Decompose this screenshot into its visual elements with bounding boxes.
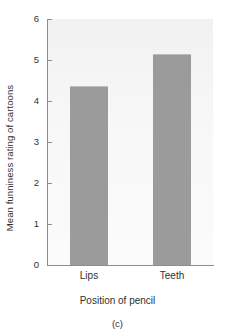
y-tick-mark bbox=[48, 265, 52, 266]
figure-caption: (c) bbox=[0, 318, 235, 329]
y-tick-label: 0 bbox=[23, 260, 39, 270]
x-tick-label-teeth: Teeth bbox=[137, 270, 207, 281]
bar-lips bbox=[70, 86, 108, 265]
figure-panel-c: Mean funniness rating of cartoons 012345… bbox=[0, 0, 235, 336]
x-axis-title: Position of pencil bbox=[0, 295, 235, 306]
x-tick-label-lips: Lips bbox=[54, 270, 124, 281]
y-tick-mark bbox=[48, 101, 52, 102]
y-tick-mark bbox=[48, 19, 52, 20]
y-tick-label: 3 bbox=[23, 137, 39, 147]
y-tick-label: 2 bbox=[23, 178, 39, 188]
y-tick-label: 4 bbox=[23, 96, 39, 106]
y-tick-mark bbox=[48, 183, 52, 184]
x-axis-line bbox=[47, 265, 214, 266]
y-tick-label: 1 bbox=[23, 219, 39, 229]
y-tick-mark bbox=[48, 60, 52, 61]
y-axis-title: Mean funniness rating of cartoons bbox=[2, 35, 18, 281]
y-tick-mark bbox=[48, 142, 52, 143]
y-tick-label: 5 bbox=[23, 55, 39, 65]
y-tick-mark bbox=[48, 224, 52, 225]
y-tick-label: 6 bbox=[23, 14, 39, 24]
bar-teeth bbox=[153, 54, 191, 265]
